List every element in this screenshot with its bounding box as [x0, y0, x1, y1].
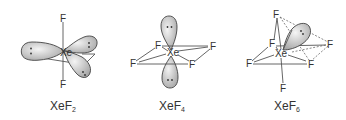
edge — [274, 18, 277, 40]
bond-xe-f — [178, 55, 189, 61]
electron-dot — [171, 79, 173, 81]
atom-f-front-right: F — [308, 59, 314, 70]
lone-pair-lobe-left — [21, 42, 64, 60]
lone-pair-lobe-bottom — [162, 56, 178, 88]
bond-xe-f-top — [277, 18, 281, 49]
atom-f-back-left: F — [155, 40, 161, 51]
electron-dot — [30, 48, 32, 50]
electron-dot — [88, 42, 90, 44]
plane-edge — [252, 47, 268, 61]
atom-f-bottom: F — [280, 83, 286, 94]
plane-edge — [136, 48, 155, 61]
atom-f-top: F — [273, 9, 279, 20]
atom-xe: Xe — [275, 48, 288, 59]
atom-f-bottom: F — [60, 79, 66, 90]
electron-dot — [167, 26, 169, 28]
atom-f-back-right: F — [327, 39, 333, 50]
bond-xe-f — [178, 47, 208, 51]
electron-dot — [167, 79, 169, 81]
molecule-xef6: F F F F F F Xe XeF6 — [246, 9, 333, 113]
molecule-xef2: F Xe F XeF2 — [21, 13, 97, 113]
bond-xe-f — [288, 55, 306, 61]
molecule-label-xef6: XeF6 — [274, 99, 300, 113]
molecule-label-xef4: XeF4 — [159, 99, 185, 113]
atom-xe: Xe — [60, 47, 73, 58]
atom-f-top: F — [60, 13, 66, 24]
electron-dot — [171, 26, 173, 28]
plane-edge — [194, 49, 210, 62]
molecule-label-xef2: XeF2 — [50, 99, 76, 113]
atom-f-front-right: F — [189, 59, 195, 70]
atom-xe: Xe — [167, 47, 180, 58]
electron-dot — [300, 30, 302, 32]
atom-f-back-right: F — [210, 41, 216, 52]
electron-dot — [84, 74, 86, 76]
electron-dot — [88, 46, 90, 48]
electron-dot — [302, 33, 304, 35]
bond-xe-f — [139, 54, 166, 62]
lone-pair-lobe-top — [161, 16, 177, 50]
electron-dot — [30, 53, 32, 55]
electron-dot — [82, 71, 84, 73]
bond-xe-f-bottom — [281, 58, 283, 83]
atom-f-front-left: F — [246, 58, 252, 69]
molecule-xef4: F F F F Xe XeF4 — [130, 16, 216, 113]
atom-f-front-left: F — [130, 58, 136, 69]
xenon-fluorides-diagram: F Xe F XeF2 F F F F Xe XeF4 — [0, 0, 346, 120]
